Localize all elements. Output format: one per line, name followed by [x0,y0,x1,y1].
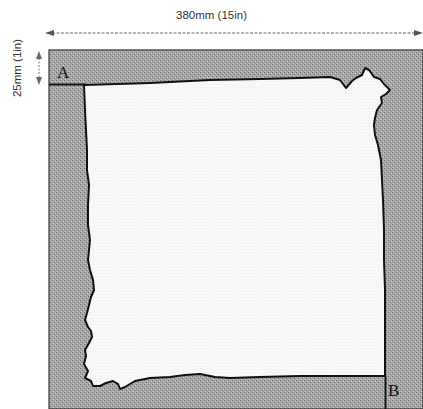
height-dimension-arrow [36,51,42,85]
width-dimension-label: 380mm (15in) [0,9,423,21]
diagram-canvas [0,0,423,409]
leather-hide-shape [84,68,390,389]
height-dimension-label: 25mm (1in) [11,33,23,103]
corner-label-a: A [57,63,69,83]
width-dimension-arrow [45,30,423,36]
leather-hide-diagram: 380mm (15in) 25mm (1in) A B [0,0,423,409]
corner-label-b: B [388,381,399,401]
